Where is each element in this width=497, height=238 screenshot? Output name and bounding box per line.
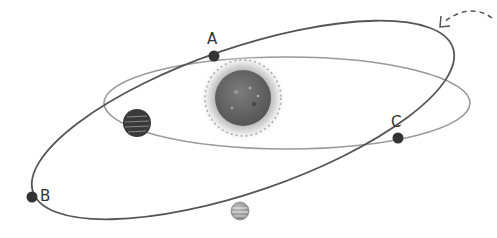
label-c: C <box>391 113 401 131</box>
label-b: B <box>40 187 50 205</box>
dark-planet <box>123 109 151 137</box>
direction-arrow-icon <box>440 11 492 27</box>
light-planet <box>231 202 249 220</box>
point-c <box>393 133 404 144</box>
sun-core <box>215 70 271 126</box>
point-b <box>27 192 38 203</box>
inner-orbit <box>104 57 470 149</box>
point-a <box>209 51 220 62</box>
label-a: A <box>207 30 218 48</box>
sun <box>199 54 287 142</box>
orbit-diagram: A B C <box>0 0 497 238</box>
